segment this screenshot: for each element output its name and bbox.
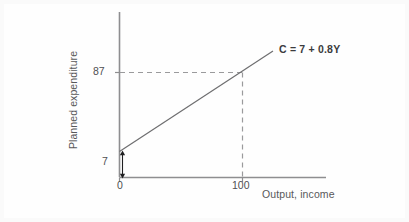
intercept-arrow <box>120 151 125 179</box>
consumption-function-figure: Planned expenditure Output, income 87 7 … <box>0 0 409 222</box>
x-tick-label-0: 0 <box>117 179 123 191</box>
curve-equation-label: C = 7 + 0.8Y <box>279 43 340 55</box>
y-tick-label-7: 7 <box>102 155 108 167</box>
y-axis-title: Planned expenditure <box>67 51 79 149</box>
consumption-function-line <box>120 51 274 152</box>
x-tick-label-100: 100 <box>232 179 250 191</box>
x-axis-title: Output, income <box>262 188 335 200</box>
plot-area <box>0 0 409 222</box>
y-tick-label-87: 87 <box>93 65 105 77</box>
